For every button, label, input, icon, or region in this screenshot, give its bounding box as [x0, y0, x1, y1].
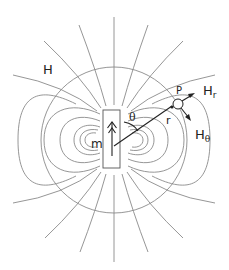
- label-htheta: Hθ: [195, 127, 210, 144]
- dipole-diagram: H m θ r P Hr Hθ: [0, 0, 229, 270]
- label-r: r: [166, 114, 171, 127]
- field-loops-left: [18, 95, 100, 185]
- label-theta: θ: [129, 111, 136, 124]
- label-hr: Hr: [203, 83, 217, 100]
- radial-lines-bottom: [13, 169, 215, 262]
- point-p-marker: [173, 99, 183, 109]
- label-point-p: P: [176, 85, 182, 96]
- label-field-h: H: [43, 62, 53, 77]
- label-moment-m: m: [91, 137, 103, 151]
